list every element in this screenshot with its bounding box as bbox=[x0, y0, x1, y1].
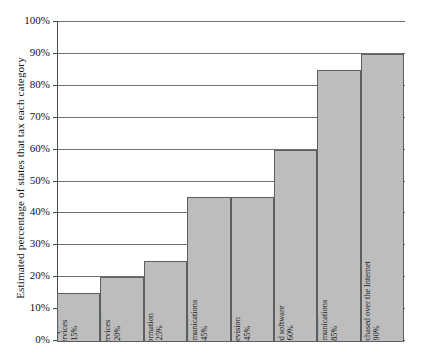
bar-label-line: television bbox=[233, 317, 242, 342]
bar-label-electronically-transmitted-information: Electronicallytransmittedinformation25% bbox=[144, 310, 166, 342]
bar-electronically-transmitted-canned-software[interactable]: Electronicallytransmittedcanned software… bbox=[274, 150, 317, 342]
y-axis-tick-label: 40% bbox=[4, 206, 50, 217]
y-axis-tick-labels: 100%90%80%70%60%50%40%30%20%10%0% bbox=[0, 0, 50, 356]
bar-label-intrastate-telecommunications: Intrastatetelecommunications85% bbox=[317, 300, 339, 342]
bar-label-electronically-transmitted-canned-software: Electronicallytransmittedcanned software… bbox=[274, 306, 296, 342]
bar-intrastate-telecommunications[interactable]: Intrastatetelecommunications85% bbox=[317, 70, 360, 342]
bar-label-line: Tangible goods purchased over the Intern… bbox=[364, 261, 373, 342]
bar-computer-services[interactable]: Computerservices15% bbox=[57, 293, 100, 342]
bar-label-line: 15% bbox=[69, 316, 78, 342]
y-axis-tick-label: 50% bbox=[4, 175, 50, 186]
bars-layer: Computerservices15%Internet accessservic… bbox=[57, 21, 405, 341]
bar-label-computer-services: Computerservices15% bbox=[57, 316, 79, 342]
bar-label-line: 20% bbox=[113, 308, 122, 342]
y-axis-tick-label: 10% bbox=[4, 302, 50, 313]
bar-label-line: 85% bbox=[330, 300, 339, 342]
bar-label-line: telecommunications bbox=[190, 300, 199, 342]
bar-electronically-transmitted-information[interactable]: Electronicallytransmittedinformation25% bbox=[144, 261, 187, 342]
bar-label-line: 60% bbox=[286, 306, 295, 342]
y-axis-tick-label: 60% bbox=[4, 143, 50, 154]
bar-label-internet-access-services: Internet accessservices20% bbox=[100, 308, 122, 342]
bar-label-line: canned software bbox=[277, 306, 286, 342]
bar-label-line: services bbox=[103, 308, 112, 342]
y-axis-tick-label: 0% bbox=[4, 334, 50, 345]
bar-cable-television[interactable]: Cabletelevision45% bbox=[231, 197, 274, 342]
bar-label-line: services bbox=[60, 316, 69, 342]
y-axis-tick-label: 20% bbox=[4, 270, 50, 281]
bar-interstate-telecommunications[interactable]: Interstatetelecommunications45% bbox=[187, 197, 230, 342]
bar-label-line: 45% bbox=[243, 317, 252, 342]
bar-chart: Estimated percentage of states that tax … bbox=[0, 0, 421, 356]
bar-label-cable-television: Cabletelevision45% bbox=[231, 317, 253, 342]
bar-label-interstate-telecommunications: Interstatetelecommunications45% bbox=[187, 300, 209, 342]
bar-label-line: 90% bbox=[373, 261, 382, 342]
y-axis-tick-label: 70% bbox=[4, 111, 50, 122]
bar-internet-access-services[interactable]: Internet accessservices20% bbox=[100, 277, 143, 342]
bar-label-tangible-goods-purchased-over-the-internet: Tangible goods purchased over the Intern… bbox=[364, 261, 383, 342]
y-axis-tick-label: 100% bbox=[4, 15, 50, 26]
bar-label-line: telecommunications bbox=[320, 300, 329, 342]
y-axis-tick-label: 80% bbox=[4, 79, 50, 90]
bar-label-line: 25% bbox=[156, 310, 165, 342]
y-axis-tick-label: 30% bbox=[4, 238, 50, 249]
bar-tangible-goods-purchased-over-the-internet[interactable]: Tangible goods purchased over the Intern… bbox=[361, 54, 404, 342]
y-axis-tick-label: 90% bbox=[4, 47, 50, 58]
bar-label-line: 45% bbox=[199, 300, 208, 342]
